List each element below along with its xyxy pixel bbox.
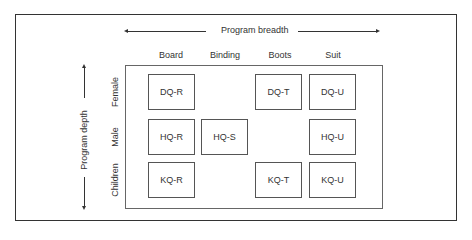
column-header-binding: Binding	[210, 50, 240, 60]
column-header-board: Board	[159, 50, 183, 60]
row-header-female: Female	[110, 77, 120, 107]
breadth-axis-label: Program breadth	[221, 25, 289, 35]
cell-male-board: HQ-R	[148, 119, 195, 155]
column-header-boots: Boots	[268, 50, 291, 60]
row-header-male: Male	[110, 127, 120, 147]
cell-children-boots: KQ-T	[255, 162, 302, 198]
arrow-right-icon	[376, 29, 380, 33]
breadth-arrow-left-line	[127, 31, 206, 32]
arrow-down-icon	[82, 206, 86, 210]
cell-male-suit: HQ-U	[309, 119, 356, 155]
depth-axis-label: Program depth	[79, 110, 89, 170]
column-header-suit: Suit	[325, 50, 341, 60]
cell-children-board: KQ-R	[148, 162, 195, 198]
depth-arrow-up-line	[84, 67, 85, 98]
cell-male-binding: HQ-S	[201, 119, 248, 155]
row-header-children: Children	[110, 163, 120, 197]
depth-arrow-down-line	[84, 177, 85, 207]
cell-female-board: DQ-R	[148, 74, 195, 110]
breadth-arrow-right-line	[298, 31, 376, 32]
cell-female-suit: DQ-U	[309, 74, 356, 110]
cell-female-boots: DQ-T	[255, 74, 302, 110]
cell-children-suit: KQ-U	[309, 162, 356, 198]
